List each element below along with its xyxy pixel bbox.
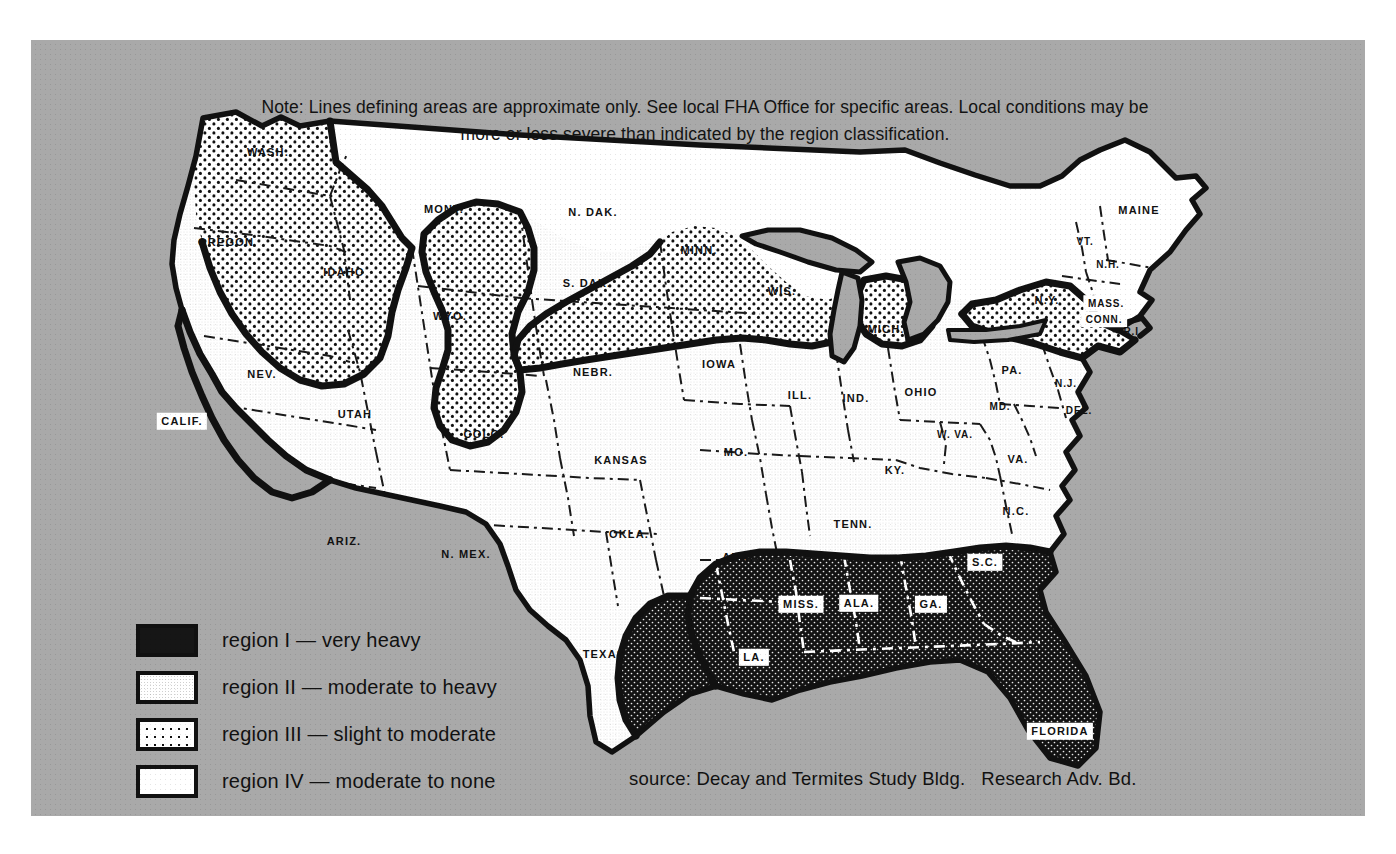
state-label-ga: GA. (915, 596, 946, 612)
state-label-texas: TEXAS (583, 648, 626, 660)
state-label-oregon: OREGON (198, 236, 254, 248)
state-label-s-dak: S. DAK. (563, 277, 612, 289)
state-label-florida: FLORIDA (1027, 723, 1092, 739)
state-label-r-i: R.I. (1123, 326, 1142, 337)
map-legend: region I — very heavy region II — modera… (136, 617, 497, 805)
state-label-kansas: KANSAS (594, 454, 648, 466)
state-label-ariz: ARIZ. (327, 535, 362, 547)
state-label-idaho: IDAHO (323, 266, 364, 278)
legend-label-region-iii: region III — slight to moderate (222, 723, 496, 746)
state-label-nebr: NEBR. (573, 366, 613, 378)
state-label-md: MD. (989, 401, 1010, 412)
legend-row: region III — slight to moderate (136, 711, 497, 758)
state-label-w-va: W. VA. (937, 429, 973, 440)
state-label-conn: CONN. (1082, 312, 1127, 327)
state-label-mo: MO. (724, 446, 748, 458)
legend-swatch-region-iii (136, 718, 198, 751)
state-label-ill: ILL. (788, 389, 812, 401)
state-label-la: LA. (739, 649, 768, 665)
state-label-okla: OKLA. (609, 528, 649, 540)
state-label-n-mex: N. MEX. (441, 548, 490, 560)
map-panel: Note: Lines defining areas are approxima… (31, 40, 1365, 816)
legend-swatch-region-i (136, 624, 198, 657)
state-label-tenn: TENN. (834, 518, 873, 530)
state-label-mich: MICH. (867, 323, 904, 335)
state-label-ala: ALA. (840, 595, 878, 611)
state-label-mont: MONT. (424, 203, 464, 215)
state-label-ohio: OHIO (905, 386, 938, 398)
state-label-utah: UTAH (338, 408, 373, 420)
state-label-wash: WASH. (247, 146, 289, 158)
state-label-n-j: N.J. (1055, 378, 1077, 389)
map-figure: Note: Lines defining areas are approxima… (0, 0, 1396, 854)
state-label-ark: ARK. (722, 551, 754, 563)
legend-row: region II — moderate to heavy (136, 664, 497, 711)
state-label-n-h: N.H. (1096, 259, 1120, 270)
state-label-n-y: N.Y. (1035, 294, 1060, 306)
state-label-mass: MASS. (1084, 296, 1128, 311)
state-label-ind: IND. (843, 392, 870, 404)
state-label-vt: VT. (1076, 236, 1093, 247)
legend-swatch-region-ii (136, 671, 198, 704)
state-label-miss: MISS. (779, 596, 823, 612)
legend-label-region-i: region I — very heavy (222, 629, 421, 652)
map-source: source: Decay and Termites Study Bldg. R… (629, 768, 1137, 790)
state-label-ky: KY. (885, 464, 906, 476)
state-label-maine: MAINE (1118, 204, 1159, 216)
state-label-wyo: WYO. (433, 310, 467, 322)
state-label-va: VA. (1007, 453, 1028, 465)
state-label-nev: NEV. (247, 368, 276, 380)
map-note: Note: Lines defining areas are approxima… (255, 94, 1155, 147)
state-label-minn: MINN. (680, 244, 717, 256)
legend-label-region-ii: region II — moderate to heavy (222, 676, 497, 699)
state-label-calif: CALIF. (157, 413, 206, 429)
state-label-n-dak: N. DAK. (568, 206, 617, 218)
legend-row: region I — very heavy (136, 617, 497, 664)
legend-label-region-iv: region IV — moderate to none (222, 770, 496, 793)
state-label-s-c: S.C. (968, 554, 1002, 570)
state-label-colo: COLO. (464, 428, 505, 440)
state-label-iowa: IOWA (702, 358, 736, 370)
state-label-wis: WIS. (768, 285, 797, 297)
legend-swatch-region-iv (136, 765, 198, 798)
state-label-n-c: N.C. (1003, 505, 1030, 517)
state-label-del: DEL. (1066, 405, 1092, 416)
state-label-pa: PA. (1001, 364, 1022, 376)
legend-row: region IV — moderate to none (136, 758, 497, 805)
